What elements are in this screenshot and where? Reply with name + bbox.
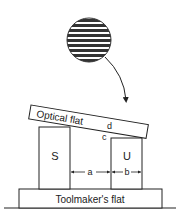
standard-block-label: S bbox=[51, 150, 58, 162]
unknown-block bbox=[111, 138, 142, 189]
unknown-block-label: U bbox=[123, 150, 131, 162]
dimension-b-label: b bbox=[124, 167, 129, 177]
toolmakers-flat-label: Toolmaker's flat bbox=[55, 194, 124, 205]
magnification-arrow bbox=[105, 57, 126, 100]
gauge-block-diagram: Toolmaker's flat S U Optical flat d c a … bbox=[0, 0, 181, 217]
point-d-label: d bbox=[107, 121, 112, 131]
interference-fringe-pattern bbox=[60, 18, 120, 62]
dimension-a-label: a bbox=[87, 167, 92, 177]
point-c-label: c bbox=[102, 132, 107, 142]
dimension-a: a bbox=[71, 167, 110, 177]
